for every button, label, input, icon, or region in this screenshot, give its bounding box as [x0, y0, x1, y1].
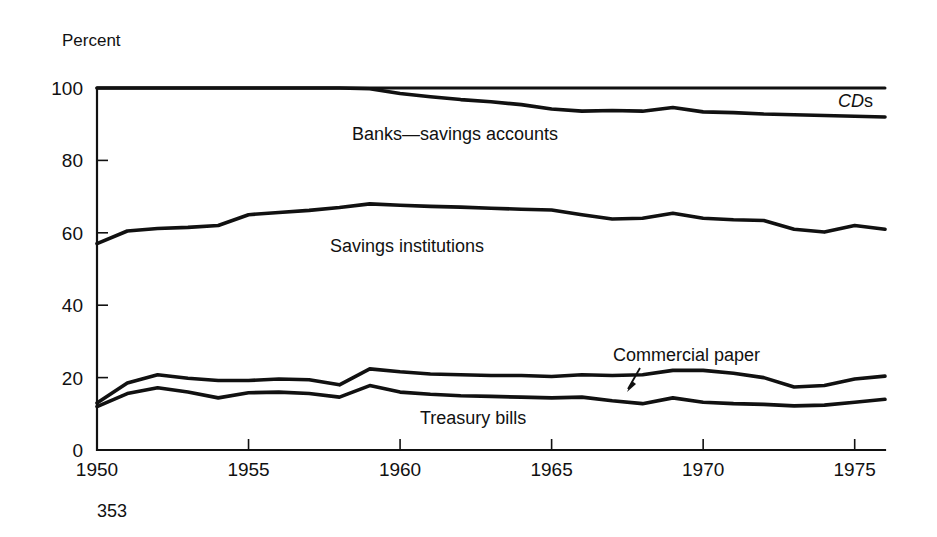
y-tick-label-60: 60	[62, 223, 83, 244]
y-tick-label-40: 40	[62, 295, 83, 316]
series-line-savings-institutions	[97, 204, 885, 244]
series-line-banks-savings-accounts	[97, 88, 885, 117]
series-label-treasury-bills: Treasury bills	[420, 408, 526, 428]
y-axis-tick-labels: 020406080100	[51, 78, 83, 461]
y-tick-label-20: 20	[62, 368, 83, 389]
series-label-cds: CDs	[838, 91, 873, 111]
chart-figure: Percent 020406080100 1950195519601965197…	[0, 0, 937, 537]
page-number: 353	[97, 501, 127, 521]
x-tick-label-1955: 1955	[227, 459, 269, 480]
series-label-commercial-paper: Commercial paper	[613, 345, 760, 365]
series-label-banks-savings-accounts: Banks—savings accounts	[352, 124, 558, 144]
series-line-treasury-bills	[97, 386, 885, 407]
series-label-savings-institutions: Savings institutions	[330, 236, 484, 256]
x-tick-label-1960: 1960	[379, 459, 421, 480]
line-chart: Percent 020406080100 1950195519601965197…	[0, 0, 937, 537]
y-tick-label-0: 0	[72, 440, 83, 461]
x-axis-tick-labels: 195019551960196519701975	[76, 459, 876, 480]
y-tick-label-100: 100	[51, 78, 83, 99]
commercial-paper-pointer-arrow	[627, 368, 640, 392]
x-tick-label-1970: 1970	[682, 459, 724, 480]
y-tick-label-80: 80	[62, 150, 83, 171]
y-axis-ticks	[97, 88, 108, 378]
y-axis-title: Percent	[62, 31, 121, 50]
x-tick-label-1975: 1975	[834, 459, 876, 480]
x-axis-ticks	[249, 439, 855, 450]
x-tick-label-1965: 1965	[530, 459, 572, 480]
x-tick-label-1950: 1950	[76, 459, 118, 480]
